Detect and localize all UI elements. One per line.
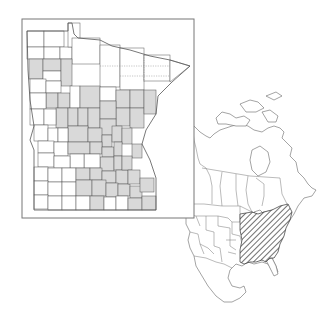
county (58, 93, 70, 108)
county (76, 180, 92, 196)
county (122, 156, 132, 170)
county (122, 128, 132, 144)
county (88, 128, 102, 142)
county (120, 48, 144, 90)
county (128, 198, 142, 210)
arctic-islands (216, 92, 282, 126)
county (27, 47, 44, 59)
county (46, 81, 61, 93)
county (30, 79, 46, 93)
county (76, 168, 90, 180)
county (92, 180, 106, 196)
county (142, 196, 156, 210)
county (48, 168, 62, 182)
county (62, 168, 76, 182)
county (90, 142, 102, 154)
county (102, 135, 112, 147)
county (84, 154, 100, 168)
county (114, 156, 122, 170)
county (34, 167, 48, 181)
county (70, 154, 84, 168)
county (29, 59, 43, 79)
county (70, 86, 80, 108)
county (116, 196, 128, 210)
county (46, 93, 58, 108)
county (114, 142, 122, 156)
county (48, 182, 62, 196)
county (144, 90, 156, 114)
county (54, 156, 70, 168)
county (130, 90, 144, 108)
county (62, 196, 76, 210)
county (30, 93, 46, 109)
county (72, 38, 100, 64)
county (88, 108, 100, 128)
county (58, 128, 68, 142)
county (43, 59, 61, 71)
county (100, 101, 116, 119)
county (56, 108, 68, 128)
county (128, 170, 140, 184)
county (132, 144, 142, 158)
county (116, 170, 128, 184)
county (38, 141, 54, 153)
county (116, 108, 130, 126)
county (112, 126, 122, 142)
county (68, 142, 90, 154)
county (44, 109, 56, 125)
county (34, 181, 48, 195)
county (76, 196, 90, 210)
county (106, 183, 118, 197)
county (34, 125, 48, 141)
county (104, 197, 116, 210)
county (90, 168, 102, 180)
county (68, 108, 78, 126)
county (48, 128, 58, 142)
distribution-figure (0, 0, 330, 326)
county (118, 184, 130, 196)
county (140, 178, 154, 192)
county (44, 47, 60, 59)
county (102, 147, 114, 157)
county (61, 59, 72, 86)
county (100, 87, 116, 101)
county (60, 47, 72, 59)
species-range-hatched (240, 204, 292, 264)
county (78, 108, 88, 126)
county (130, 108, 144, 128)
county (116, 90, 130, 108)
county (38, 153, 54, 167)
county (54, 142, 68, 156)
county (48, 196, 62, 210)
florida (266, 258, 278, 276)
county (68, 126, 88, 142)
county (90, 196, 104, 210)
county (62, 182, 76, 196)
county (27, 31, 44, 47)
county (44, 31, 64, 47)
county (34, 195, 48, 209)
county (80, 86, 100, 108)
